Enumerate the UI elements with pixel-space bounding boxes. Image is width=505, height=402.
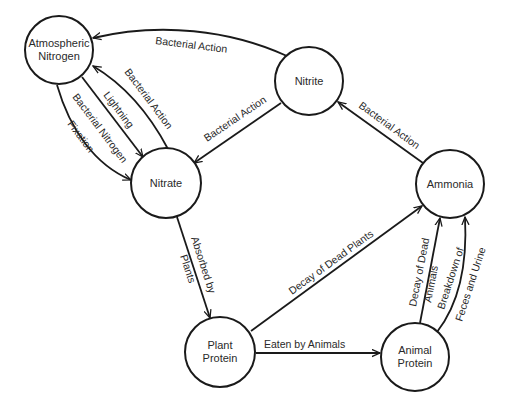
node-ammonia: Ammonia <box>416 150 484 218</box>
node-plant-protein: Plant Protein <box>185 317 255 387</box>
svg-text:Nitrite: Nitrite <box>295 75 324 87</box>
label-nitrite-to-atm: Bacterial Action <box>155 34 228 55</box>
label-eaten-by-animals: Eaten by Animals <box>264 338 345 350</box>
svg-text:Protein: Protein <box>203 352 238 364</box>
svg-text:Nitrogen: Nitrogen <box>38 50 80 62</box>
svg-text:Protein: Protein <box>398 357 433 369</box>
svg-text:Animal: Animal <box>398 344 432 356</box>
svg-text:Plant: Plant <box>207 339 232 351</box>
svg-text:Atmospheric: Atmospheric <box>28 37 90 49</box>
edge-plant-protein-to-ammonia <box>251 206 422 331</box>
nitrogen-cycle-diagram: Bacterial Action Bacterial Action Lightn… <box>0 0 505 402</box>
node-atmospheric-nitrogen: Atmospheric Nitrogen <box>25 16 93 84</box>
node-nitrite: Nitrite <box>275 47 343 115</box>
svg-text:Nitrate: Nitrate <box>150 177 182 189</box>
node-animal-protein: Animal Protein <box>381 323 449 391</box>
svg-text:Ammonia: Ammonia <box>427 178 474 190</box>
node-nitrate: Nitrate <box>131 148 201 218</box>
label-decay-dead-plants: Decay of Dead Plants <box>286 227 375 296</box>
label-ammonia-to-nitrite: Bacterial Action <box>357 99 423 151</box>
